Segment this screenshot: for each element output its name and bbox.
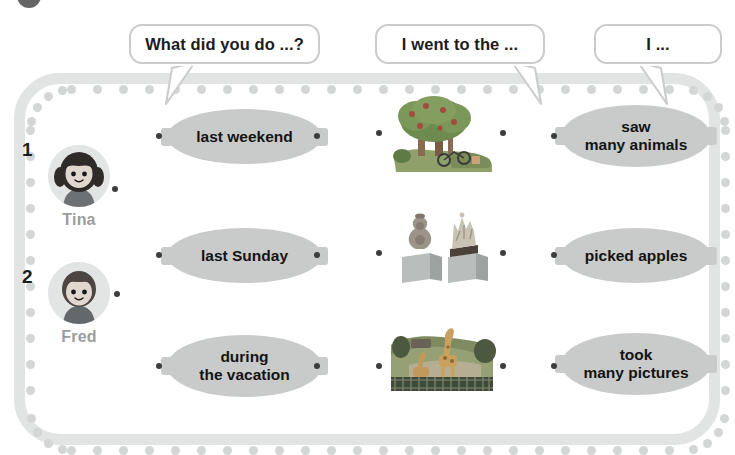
frame-bead <box>535 446 544 455</box>
connector-dot-action-2-left[interactable] <box>551 252 557 258</box>
connector-dot-picture-1-right[interactable] <box>500 130 506 136</box>
option-time-1[interactable]: last weekend <box>167 109 322 164</box>
frame-bead <box>721 386 730 395</box>
frame-bead <box>613 446 622 455</box>
frame-bead <box>67 446 76 455</box>
speech-bubble-action-text: I ... <box>646 35 669 54</box>
frame-bead <box>327 446 336 455</box>
person-name-tina: Tina <box>39 211 119 229</box>
girl-avatar-icon <box>48 145 110 207</box>
connector-dot-time-1-left[interactable] <box>156 133 162 139</box>
picture-zoo[interactable] <box>389 325 497 397</box>
picture-orchard[interactable] <box>388 92 498 177</box>
frame-bead <box>721 152 730 161</box>
exercise-number-badge <box>17 0 41 8</box>
option-action-3-line1: took <box>620 346 653 363</box>
person-name-fred: Fred <box>39 328 119 346</box>
frame-bead <box>714 428 723 437</box>
option-time-3-label: during the vacation <box>189 348 299 383</box>
option-time-2-label: last Sunday <box>191 247 298 265</box>
option-action-1[interactable]: saw many animals <box>561 105 711 167</box>
frame-bead <box>721 126 730 135</box>
option-time-3[interactable]: during the vacation <box>167 335 322 397</box>
frame-bead <box>721 230 730 239</box>
speech-bubble-place: I went to the ... <box>375 24 545 64</box>
connector-dot-action-1-left[interactable] <box>551 133 557 139</box>
row-number-2: 2 <box>22 266 33 288</box>
frame-bead <box>93 446 102 455</box>
connector-dot-picture-3-left[interactable] <box>376 363 382 369</box>
frame-bead <box>721 178 730 187</box>
frame-bead <box>587 446 596 455</box>
option-action-1-line2: many animals <box>585 136 688 153</box>
frame-bead <box>689 445 698 454</box>
person-tina[interactable]: Tina <box>48 145 110 207</box>
option-action-2-label: picked apples <box>575 247 698 265</box>
connector-dot-picture-1-left[interactable] <box>376 130 382 136</box>
speech-bubble-question-text: What did you do ...? <box>145 35 304 54</box>
frame-bead <box>703 439 712 448</box>
boy-avatar-icon <box>48 262 110 324</box>
connector-dot-person-2[interactable] <box>114 291 120 297</box>
frame-bead <box>171 446 180 455</box>
connector-dot-time-3-right[interactable] <box>314 363 320 369</box>
option-time-3-line1: during <box>220 348 268 365</box>
frame-bead <box>509 446 518 455</box>
option-action-2[interactable]: picked apples <box>561 228 711 283</box>
frame-bead <box>665 446 674 455</box>
frame-bead <box>639 446 648 455</box>
speech-bubble-action-tail <box>638 62 674 106</box>
option-action-3[interactable]: took many pictures <box>561 333 711 395</box>
speech-bubble-place-text: I went to the ... <box>402 35 518 54</box>
option-time-1-label: last weekend <box>186 128 303 146</box>
option-action-3-line2: many pictures <box>583 364 688 381</box>
connector-dot-picture-2-left[interactable] <box>376 250 382 256</box>
person-fred[interactable]: Fred <box>48 262 110 324</box>
frame-bead <box>721 256 730 265</box>
connector-dot-person-1[interactable] <box>112 186 118 192</box>
option-action-3-label: took many pictures <box>573 346 698 381</box>
frame-bead <box>58 445 67 454</box>
frame-bead <box>145 446 154 455</box>
option-time-3-line2: the vacation <box>199 366 289 383</box>
frame-bead <box>561 446 570 455</box>
frame-bead <box>721 308 730 317</box>
oval-nub-left <box>161 128 173 146</box>
speech-bubble-question-tail <box>160 62 200 106</box>
frame-bead <box>379 446 388 455</box>
frame-bead <box>720 414 729 423</box>
frame-bead <box>275 446 284 455</box>
picture-museum[interactable] <box>396 209 490 283</box>
oval-nub-right <box>705 247 717 265</box>
frame-bead <box>720 117 729 126</box>
connector-dot-action-3-left[interactable] <box>551 363 557 369</box>
option-action-1-line1: saw <box>621 118 650 135</box>
option-time-2[interactable]: last Sunday <box>167 228 322 283</box>
option-action-1-label: saw many animals <box>575 118 698 153</box>
connector-dot-picture-3-right[interactable] <box>500 363 506 369</box>
oval-nub-right <box>705 355 717 373</box>
connector-dot-time-3-left[interactable] <box>156 363 162 369</box>
frame-bead <box>721 334 730 343</box>
connector-dot-time-1-right[interactable] <box>314 133 320 139</box>
oval-nub-left <box>161 247 173 265</box>
oval-nub-right <box>705 127 717 145</box>
speech-bubble-place-tail <box>512 62 548 106</box>
frame-bead <box>431 446 440 455</box>
connector-dot-time-2-left[interactable] <box>156 252 162 258</box>
frame-bead <box>483 446 492 455</box>
zoo-giraffe-icon <box>389 325 497 397</box>
frame-bead <box>721 204 730 213</box>
frame-bead <box>721 360 730 369</box>
frame-bead <box>119 446 128 455</box>
frame-bead <box>721 282 730 291</box>
museum-exhibit-icon <box>396 209 490 283</box>
connector-dot-time-2-right[interactable] <box>314 252 320 258</box>
speech-bubble-question: What did you do ...? <box>129 24 320 64</box>
frame-bead <box>249 446 258 455</box>
apple-orchard-icon <box>388 92 498 177</box>
frame-bead <box>223 446 232 455</box>
frame-bead <box>301 446 310 455</box>
connector-dot-picture-2-right[interactable] <box>500 250 506 256</box>
frame-bead <box>405 446 414 455</box>
